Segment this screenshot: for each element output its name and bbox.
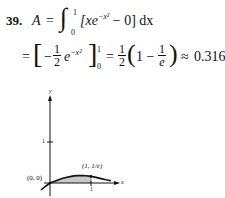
exp-exponent: −x² <box>70 48 81 57</box>
x-axis-arrow-icon <box>114 181 120 185</box>
paren-open: ( <box>127 41 136 67</box>
fraction-denominator: 2 <box>118 56 126 68</box>
area-graph: y x 1 1 (0, 0) (1, 1/e) <box>0 88 140 198</box>
graph-svg <box>0 88 140 198</box>
bracket-open: [ <box>33 40 42 68</box>
eval-upper: 1 <box>97 45 101 54</box>
fraction-one-over-e: 1 e <box>158 43 166 68</box>
equals-sign-2: = <box>22 49 30 65</box>
integrand: [xe−x² − 0] dx <box>80 13 153 29</box>
exp-base: e−x² <box>64 49 82 65</box>
area-variable: A <box>32 13 41 29</box>
result-value: 0.316 <box>194 49 225 65</box>
equation-line-2: = [ − 1 2 e−x² ] 1 0 = 1 2 ( 1 − 1 e ) ≈… <box>22 40 225 74</box>
approx-sign: ≈ <box>181 49 189 65</box>
fraction-half-1: 1 2 <box>53 43 61 68</box>
integrand-base: [xe <box>80 13 98 28</box>
minus-sign: − <box>44 49 52 65</box>
fraction-denominator: 2 <box>53 56 61 68</box>
point-1-1-over-e <box>90 175 93 178</box>
y-axis-arrow-icon <box>48 95 52 101</box>
point-label: (1, 1/e) <box>82 162 102 170</box>
integrand-exponent: −x² <box>98 12 109 21</box>
x-axis-label: x <box>121 179 124 185</box>
origin-label: (0, 0) <box>27 174 42 182</box>
one-minus: 1 − <box>136 49 154 65</box>
problem-number: 39. <box>6 13 22 29</box>
paren-close: ) <box>169 41 178 67</box>
fraction-denominator: e <box>158 56 166 68</box>
integrand-rest: − 0] dx <box>109 13 153 28</box>
y-tick-label: 1 <box>42 138 45 144</box>
equals-sign: = <box>46 13 54 29</box>
point-origin <box>49 182 52 185</box>
fraction-half-2: 1 2 <box>118 43 126 68</box>
integral-lower-limit: 0 <box>71 28 75 37</box>
eval-lower: 0 <box>97 62 101 71</box>
integral-upper-limit: 1 <box>73 8 77 17</box>
equals-sign-3: = <box>106 49 114 65</box>
x-tick-label: 1 <box>90 186 93 192</box>
integral-sign: ∫ <box>60 5 67 31</box>
bracket-close: ] <box>88 40 97 68</box>
y-axis-label: y <box>49 88 52 94</box>
